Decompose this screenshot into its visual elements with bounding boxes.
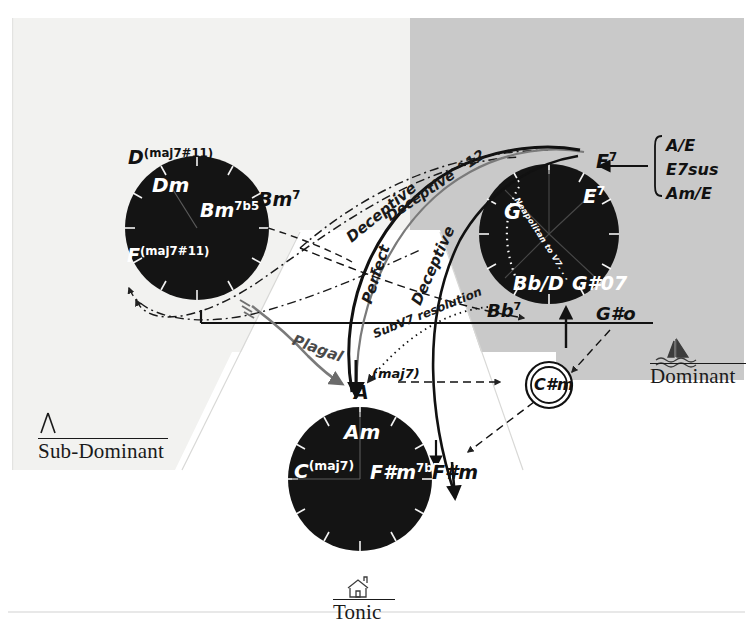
label-a-maj7-ext: (maj7) <box>372 366 420 381</box>
label-bb7: Bb7 <box>487 300 521 321</box>
substitution-item-am-over-e: Am/E <box>666 184 712 203</box>
substitution-item-e7sus: E7sus <box>666 160 719 179</box>
label-fsharpm: F#m <box>432 461 478 483</box>
label-cmaj7: C(maj7) <box>294 458 354 483</box>
label-fsharpm7b5: F#m7b5 <box>370 461 441 483</box>
house-icon <box>348 577 368 597</box>
label-bm7b5: Bm7b5 <box>200 199 259 221</box>
caption-dominant: Dominant <box>650 363 746 389</box>
label-gsharpo: G#o <box>596 303 636 324</box>
substitution-item-a-over-e: A/E <box>666 136 695 155</box>
label-bm7: Bm7 <box>258 188 300 210</box>
diagram-canvas: D(maj7#11) Dm Bm7b5 Bm7 F(maj7#11) E7 E7… <box>0 0 753 625</box>
label-e7-outer: E7 <box>596 150 617 172</box>
sub-dominant-disc <box>125 156 269 300</box>
caption-sub-dominant: Sub-Dominant <box>38 438 168 464</box>
label-e7-inner: E7 <box>583 183 605 208</box>
caption-sub-dominant-text: Sub-Dominant <box>38 439 168 464</box>
label-dmaj7sharp11: D(maj7#11) <box>128 146 213 168</box>
label-fmaj7sharp11: F(maj7#11) <box>127 244 209 266</box>
label-dm: Dm <box>152 173 189 197</box>
label-gsharp07: G#07 <box>572 272 627 294</box>
caption-tonic: Tonic <box>333 599 395 625</box>
label-bbslashd: Bb/D <box>513 272 564 294</box>
label-am: Am <box>344 420 380 444</box>
caption-dominant-text: Dominant <box>650 364 746 389</box>
label-csharpm[interactable]: C#m <box>534 375 574 394</box>
caption-tonic-text: Tonic <box>333 600 395 625</box>
label-a-outer: A <box>354 381 369 403</box>
diagram-vector-layer <box>0 0 753 625</box>
